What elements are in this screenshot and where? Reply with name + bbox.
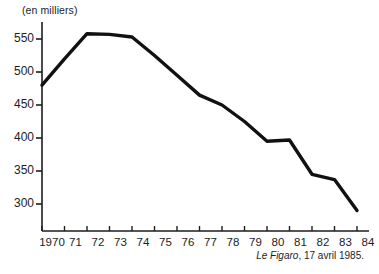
x-tick-label: 83 — [335, 236, 357, 248]
x-tick-label: 78 — [222, 236, 244, 248]
y-tick-label: 550 — [0, 31, 34, 45]
source-date: , 17 avril 1985. — [298, 250, 364, 261]
x-tick-label: 73 — [110, 236, 132, 248]
x-tick-label: 74 — [132, 236, 154, 248]
source-publication: Le Figaro — [256, 250, 298, 261]
x-tick-label: 79 — [245, 236, 267, 248]
y-tick-label: 400 — [0, 130, 34, 144]
x-tick-label: 76 — [177, 236, 199, 248]
x-tick-label: 77 — [200, 236, 222, 248]
y-tick-label: 350 — [0, 163, 34, 177]
y-tick-label: 450 — [0, 97, 34, 111]
x-tick-label: 75 — [155, 236, 177, 248]
source-caption: Le Figaro, 17 avril 1985. — [256, 250, 364, 261]
x-tick-label: 81 — [290, 236, 312, 248]
x-tick-label: 80 — [267, 236, 289, 248]
y-tick-label: 500 — [0, 64, 34, 78]
x-tick-label: 82 — [312, 236, 334, 248]
x-tick-label: 71 — [65, 236, 87, 248]
x-tick-label: 72 — [87, 236, 109, 248]
x-tick-label: 84 — [357, 236, 379, 248]
y-tick-label: 300 — [0, 196, 34, 210]
